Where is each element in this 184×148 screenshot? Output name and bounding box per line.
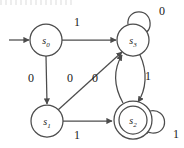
state-label-s1-sub: 1 (47, 122, 51, 130)
transition-label-s2-s3: 0 (92, 71, 98, 85)
transition-label-s0-s3: 1 (74, 15, 80, 29)
transition-label-self-loop-s3: 0 (159, 4, 165, 18)
state-diagram-canvas: s0 s3 s1 s2 1 0 0 0 1 1 0 1 (0, 0, 184, 148)
transition-label-s3-s2: 1 (145, 69, 151, 83)
state-label-s3-sub: 3 (132, 41, 137, 49)
edge-s2-s3 (115, 55, 123, 103)
state-label-s0-sub: 0 (46, 41, 50, 49)
edge-s0-s1 (46, 56, 47, 104)
transition-label-s0-s1: 0 (28, 71, 34, 85)
transition-label-s1-s3: 0 (67, 71, 73, 85)
state-diagram-figure: s0 s3 s1 s2 1 0 0 0 1 1 0 1 (0, 0, 184, 148)
state-label-s2-sub: 2 (133, 121, 137, 129)
transition-label-self-loop-s2: 1 (173, 127, 179, 141)
transition-label-s1-s2: 1 (74, 128, 80, 142)
